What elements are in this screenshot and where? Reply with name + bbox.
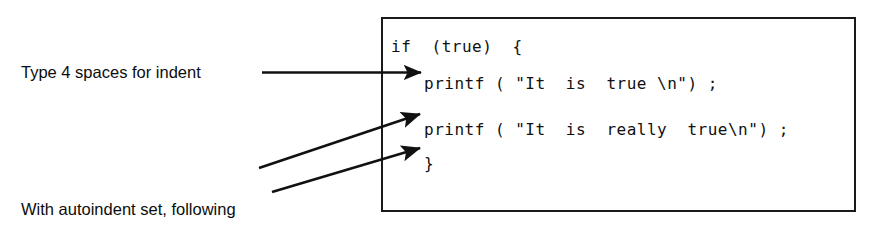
code-line-printf-really-true: printf ( "It is really true\n") ; [424, 122, 789, 138]
code-sample-box: if (true) { printf ( "It is true \n") ; … [381, 17, 856, 212]
code-line-closing-brace: } [424, 156, 434, 172]
figure-root: if (true) { printf ( "It is true \n") ; … [0, 0, 885, 225]
annotation-autoindent: With autoindent set, following lines are… [21, 157, 257, 225]
code-line-if: if (true) { [391, 39, 523, 55]
code-line-printf-true: printf ( "It is true \n") ; [424, 76, 718, 92]
annotation-type-4-spaces: Type 4 spaces for indent [21, 62, 201, 83]
annotation-autoindent-line-1: With autoindent set, following [21, 199, 257, 220]
